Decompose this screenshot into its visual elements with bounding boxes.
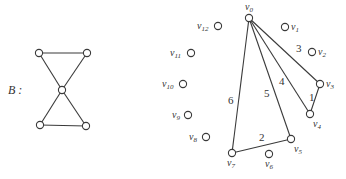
vertex-label-v2: v2 (318, 46, 326, 59)
vertex-label-v11: v11 (170, 47, 181, 60)
cycle-graph-nodes (179, 14, 323, 157)
graph-b-edge (39, 53, 62, 90)
graph-b-vertex (36, 121, 43, 128)
vertex-label-v8: v8 (189, 131, 197, 144)
cycle-graph-edges (232, 18, 320, 153)
edge-weight-label: 5 (264, 87, 270, 99)
edge-v0-v7 (232, 18, 249, 153)
vertex-label-v7: v7 (227, 157, 235, 170)
vertex-v0 (245, 14, 252, 21)
vertex-v3 (316, 80, 323, 87)
edge-weight-label: 3 (296, 42, 302, 54)
vertex-v2 (308, 48, 315, 55)
graph-b-vertex (83, 49, 90, 56)
edge-weight-label: 4 (279, 75, 285, 87)
vertex-label-v4: v4 (313, 118, 321, 131)
vertex-label-v1: v1 (291, 21, 299, 34)
graph-b-edge (62, 53, 87, 90)
vertex-v9 (184, 111, 191, 118)
vertex-v11 (187, 49, 194, 56)
cycle-graph-edge-weights: 345612 (228, 42, 315, 143)
vertex-label-v0: v0 (245, 1, 253, 14)
vertex-v10 (179, 80, 186, 87)
vertex-v5 (287, 135, 294, 142)
graph-b-edge (40, 90, 62, 125)
vertex-label-v9: v9 (172, 109, 180, 122)
vertex-v7 (228, 149, 235, 156)
graph-b-vertex (35, 49, 42, 56)
diagram-canvas: B : 345612 v0v1v2v3v4v5v6v7v8v9v10v11v12 (0, 0, 346, 179)
edge-v0-v5 (249, 18, 291, 139)
graph-b-vertex (58, 86, 65, 93)
graph-b-edge (62, 90, 86, 126)
graph-b-vertex (82, 122, 89, 129)
edge-weight-label: 1 (309, 91, 315, 103)
vertex-label-v5: v5 (294, 143, 302, 156)
graph-b-label: B : (8, 83, 22, 97)
graph-b-edge (40, 125, 86, 126)
edge-weight-label: 6 (228, 94, 234, 106)
vertex-v6 (265, 150, 272, 157)
vertex-label-v6: v6 (265, 158, 273, 171)
vertex-label-v3: v3 (326, 78, 334, 91)
vertex-label-v12: v12 (197, 20, 209, 33)
vertex-label-v10: v10 (162, 78, 174, 91)
edge-weight-label: 2 (259, 131, 265, 143)
vertex-v8 (202, 133, 209, 140)
vertex-v12 (214, 22, 221, 29)
vertex-v4 (306, 110, 313, 117)
vertex-v1 (281, 23, 288, 30)
